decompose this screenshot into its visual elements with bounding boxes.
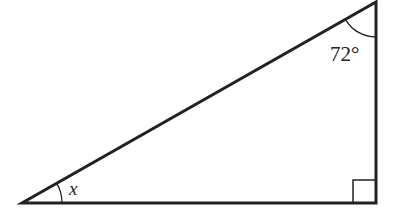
angle-label-72: 72° xyxy=(330,42,359,67)
angle-label-x: x xyxy=(69,178,77,200)
triangle-outline xyxy=(22,2,376,203)
triangle-figure xyxy=(0,0,401,218)
x-angle-arc xyxy=(56,183,62,203)
top-angle-arc xyxy=(346,20,376,37)
triangle-diagram: 72° x xyxy=(0,0,401,218)
right-angle-marker xyxy=(353,180,376,203)
